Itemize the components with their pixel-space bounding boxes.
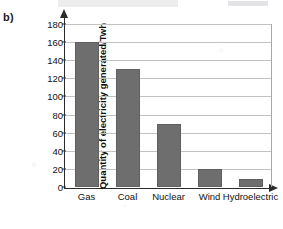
bar [75, 42, 99, 187]
y-axis-tick-label: 100 [37, 91, 63, 102]
figure-panel-b: b) Quantity of electricity generated/Twh… [0, 0, 283, 229]
y-axis-tick-label: 160 [37, 37, 63, 48]
plot-area: Quantity of electricity generated/Twh 02… [66, 24, 272, 187]
y-axis-tick-label: 120 [37, 73, 63, 84]
x-axis-tick-label: Nuclear [152, 191, 185, 202]
bar [239, 179, 263, 187]
bar [157, 124, 181, 187]
panel-label: b) [3, 11, 14, 23]
x-axis-tick-label: Coal [118, 191, 138, 202]
y-axis-tick-label: 20 [37, 163, 63, 174]
y-axis-arrowhead [60, 9, 68, 18]
bar [198, 169, 222, 187]
y-axis-tick-label: 60 [37, 127, 63, 138]
y-axis-tick-label: 0 [37, 182, 63, 193]
x-axis-line [64, 188, 270, 189]
x-axis-tick-label: Gas [78, 191, 95, 202]
cropped-text-artifact [58, 0, 178, 7]
gridline [66, 24, 271, 25]
y-axis-tick-label: 140 [37, 55, 63, 66]
x-axis-tick-label: Hydroelectric [223, 191, 278, 202]
x-axis-tick-label: Wind [199, 191, 221, 202]
cropped-text-artifact-right [228, 1, 268, 6]
y-axis-tick-label: 80 [37, 109, 63, 120]
y-axis-tick-label: 180 [37, 19, 63, 30]
y-axis-tick-label: 40 [37, 145, 63, 156]
bar [116, 69, 140, 187]
